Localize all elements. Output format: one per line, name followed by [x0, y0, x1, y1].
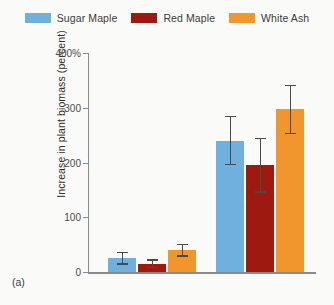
error-bar-cap-top — [255, 138, 266, 139]
error-bar-sugar-maple-group-2 — [225, 116, 236, 165]
legend-item-red-maple[interactable]: Red Maple — [131, 12, 215, 24]
legend-swatch-white-ash — [229, 13, 255, 23]
legend-item-white-ash[interactable]: White Ash — [229, 12, 309, 24]
legend-swatch-red-maple — [131, 13, 157, 23]
error-bar-cap-bottom — [147, 267, 158, 268]
y-tick-label-0: 0 — [75, 267, 81, 278]
error-bar-cap-bottom — [225, 164, 236, 165]
error-bar-sugar-maple-group-1 — [117, 252, 128, 265]
legend-swatch-sugar-maple — [25, 13, 51, 23]
y-tick-label-300: 300 — [64, 102, 81, 113]
y-tick-label-400: 400% — [55, 48, 81, 59]
error-bar-cap-bottom — [255, 191, 266, 192]
y-tick-label-200: 200 — [64, 157, 81, 168]
chart-legend: Sugar Maple Red Maple White Ash — [0, 12, 334, 24]
error-bar-cap-top — [225, 116, 236, 117]
error-bar-cap-bottom — [285, 133, 296, 134]
bar-series-container — [88, 50, 316, 272]
figure-panel-a: Sugar Maple Red Maple White Ash Increase… — [0, 0, 334, 305]
legend-label-red-maple: Red Maple — [163, 12, 215, 24]
legend-item-sugar-maple[interactable]: Sugar Maple — [25, 12, 118, 24]
error-bar-red-maple-group-1 — [147, 259, 158, 268]
error-bar-line — [260, 138, 261, 193]
error-bar-line — [290, 85, 291, 134]
error-bar-cap-top — [117, 252, 128, 253]
error-bar-white-ash-group-1 — [177, 244, 188, 257]
error-bar-red-maple-group-2 — [255, 138, 266, 193]
error-bar-cap-bottom — [117, 263, 128, 264]
error-bar-white-ash-group-2 — [285, 85, 296, 134]
error-bar-cap-top — [147, 259, 158, 260]
panel-label: (a) — [12, 276, 25, 288]
y-axis-title: Increase in plant biomass (percent) — [55, 2, 69, 226]
y-tick-mark-0 — [83, 272, 88, 273]
y-tick-label-100: 100 — [64, 212, 81, 223]
error-bar-cap-bottom — [177, 255, 188, 256]
x-axis-line — [88, 272, 316, 274]
plot-area: 0100200300400% — [88, 50, 316, 274]
error-bar-cap-top — [177, 244, 188, 245]
error-bar-cap-top — [285, 85, 296, 86]
legend-label-white-ash: White Ash — [261, 12, 309, 24]
error-bar-line — [230, 116, 231, 165]
